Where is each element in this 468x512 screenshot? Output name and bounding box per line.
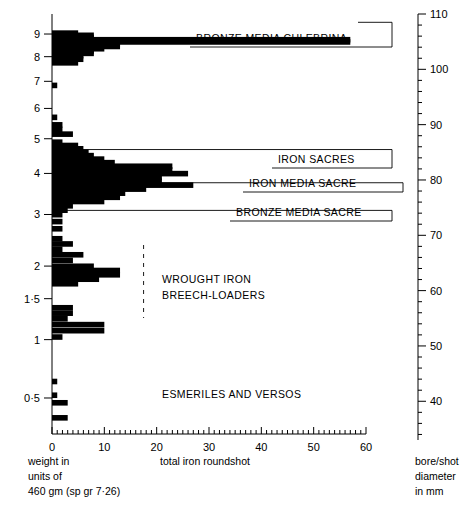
histogram-bar	[52, 226, 62, 232]
count-axis-tick-label: 20	[151, 441, 163, 453]
histogram-bar	[52, 252, 83, 258]
mm-axis-tick-label: 50	[430, 340, 442, 352]
count-axis-tick-label: 60	[360, 441, 372, 453]
mm-axis-tick-label: 90	[430, 119, 442, 131]
weight-axis-tick-label: 1	[34, 334, 40, 346]
weight-axis-tick-label: 4	[34, 167, 40, 179]
histogram-bar	[52, 322, 104, 328]
histogram-bar	[52, 379, 57, 385]
weight-axis-tick-label: 5	[34, 133, 40, 145]
histogram-bar	[52, 316, 68, 322]
histogram-bar	[52, 334, 62, 340]
mm-axis-tick-label: 60	[430, 285, 442, 297]
mm-axis-caption-line: bore/shot	[415, 455, 459, 467]
count-axis-tick-label: 0	[49, 441, 55, 453]
histogram-bar	[52, 305, 73, 311]
y-axis-caption-line: units of	[28, 470, 62, 482]
mm-axis-caption-line: in mm	[415, 485, 444, 497]
histogram-bar	[52, 310, 73, 316]
histogram-bar	[52, 83, 57, 89]
annotation-label-bronze-media-culebrina: BRONZE MEDIA CULEBRINA	[196, 32, 347, 44]
histogram-bar	[52, 281, 78, 287]
group-label: ESMERILES AND VERSOS	[162, 388, 301, 400]
annotation-label-iron-sacres: IRON SACRES	[278, 153, 355, 165]
histogram-bar	[52, 415, 68, 421]
group-label: WROUGHT IRON	[162, 273, 251, 285]
annotation-label-iron-media-sacre: IRON MEDIA SACRE	[249, 177, 356, 189]
weight-axis-tick-label: 3	[34, 208, 40, 220]
count-axis-tick-label: 50	[308, 441, 320, 453]
weight-axis-tick-label: 0·5	[24, 392, 40, 404]
y-axis-caption-line: 460 gm (sp gr 7·26)	[28, 485, 120, 497]
histogram-bar	[52, 246, 62, 252]
count-axis-tick-label: 30	[203, 441, 215, 453]
histogram-bar	[52, 115, 57, 121]
mm-axis-tick-label: 70	[430, 229, 442, 241]
histogram-bar	[52, 236, 62, 242]
histogram-bar	[52, 328, 104, 334]
bars-group	[52, 30, 350, 420]
x-axis-caption: total iron roundshot	[160, 455, 250, 467]
weight-axis-tick-label: 6	[34, 102, 40, 114]
histogram-bar	[52, 219, 62, 225]
weight-axis-tick-label: 8	[34, 51, 40, 63]
histogram-bar	[52, 131, 73, 137]
roundshot-histogram: 0·511·5234567890102030405060total iron r…	[0, 0, 468, 512]
weight-axis-tick-label: 9	[34, 28, 40, 40]
y-axis-caption-line: weight in	[27, 455, 70, 467]
mm-axis-tick-label: 40	[430, 395, 442, 407]
histogram-bar	[52, 258, 73, 264]
weight-axis-tick-label: 2	[34, 260, 40, 272]
histogram-bar	[52, 400, 68, 406]
mm-axis-tick-label: 80	[430, 174, 442, 186]
weight-axis-tick-label: 1·5	[24, 293, 40, 305]
mm-axis-caption-line: diameter	[415, 470, 456, 482]
histogram-bar	[52, 212, 62, 218]
chart-figure: 0·511·5234567890102030405060total iron r…	[0, 0, 468, 512]
histogram-bar	[52, 60, 78, 66]
count-axis-tick-label: 40	[255, 441, 267, 453]
mm-axis-tick-label: 100	[430, 63, 448, 75]
histogram-bar	[52, 392, 57, 398]
mm-axis-tick-label: 110	[430, 8, 448, 20]
weight-axis-tick-label: 7	[34, 75, 40, 87]
count-axis-tick-label: 10	[98, 441, 110, 453]
histogram-bar	[52, 241, 73, 247]
group-label: BREECH-LOADERS	[162, 289, 265, 301]
annotation-label-bronze-media-sacre: BRONZE MEDIA SACRE	[236, 206, 362, 218]
